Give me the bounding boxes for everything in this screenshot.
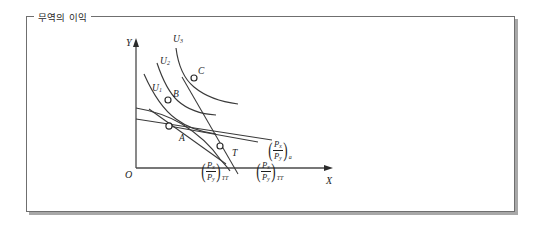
- point-marker-t: [217, 143, 223, 149]
- tt-right-denominator-sub: y: [267, 176, 270, 182]
- point-label-t: T: [232, 149, 237, 159]
- price-ratio-autarky: ( Px Py ) a: [267, 140, 292, 161]
- tt-right-numerator-sub: x: [267, 164, 270, 170]
- tt-left-denominator-sub: y: [212, 176, 215, 182]
- curve-label-u1-base: U: [152, 83, 159, 93]
- curve-label-u3-base: U: [173, 34, 180, 44]
- origin-label: O: [125, 170, 132, 180]
- indifference-curve-u3: [176, 48, 238, 104]
- right-paren-autarky: ): [283, 140, 287, 161]
- price-ratio-terms-of-trade-left: ( Px Py ) TT: [200, 161, 228, 182]
- figure-root: 무역의 이익: [0, 0, 542, 233]
- curve-label-u2: U2: [160, 57, 170, 67]
- autarky-price-line: [136, 119, 272, 140]
- left-paren-tt-left: (: [201, 161, 205, 182]
- curve-label-u3-sub: 3: [180, 38, 183, 44]
- point-marker-c: [191, 75, 197, 81]
- fraction-autarky: Px Py: [273, 140, 283, 161]
- y-axis-label: Y: [126, 38, 132, 48]
- tt-left-subscript: TT: [222, 175, 229, 182]
- curve-label-u2-sub: 2: [167, 60, 170, 66]
- curve-label-u3: U3: [173, 35, 183, 45]
- fraction-tt-right: Px Py: [261, 161, 271, 182]
- point-label-b: B: [173, 90, 179, 100]
- left-paren-tt-right: (: [256, 161, 260, 182]
- autarky-subscript: a: [289, 154, 292, 161]
- point-label-c: C: [198, 67, 204, 77]
- indifference-curve-u2: [157, 63, 216, 115]
- curve-label-u1-sub: 1: [159, 87, 162, 93]
- x-axis-label: X: [326, 176, 332, 186]
- figure-caption-notch: 무역의 이익: [34, 10, 91, 23]
- point-label-a: A: [179, 134, 185, 144]
- autarky-numerator-sub: x: [279, 143, 282, 149]
- point-marker-a: [166, 123, 172, 129]
- price-ratio-terms-of-trade-right: ( Px Py ) TT: [255, 161, 283, 182]
- tt-right-subscript: TT: [277, 175, 284, 182]
- point-marker-b: [165, 97, 171, 103]
- fraction-tt-left: Px Py: [206, 161, 216, 182]
- y-axis: [133, 38, 139, 168]
- autarky-denominator-sub: y: [279, 155, 282, 161]
- terms-of-trade-line-consumption: [149, 109, 226, 164]
- right-paren-tt-left: ): [216, 161, 220, 182]
- left-paren-autarky: (: [268, 140, 272, 161]
- curve-label-u1: U1: [152, 84, 162, 94]
- curve-label-u2-base: U: [160, 56, 167, 66]
- right-paren-tt-right: ): [271, 161, 275, 182]
- figure-caption: 무역의 이익: [38, 10, 87, 24]
- tt-left-numerator-sub: x: [212, 164, 215, 170]
